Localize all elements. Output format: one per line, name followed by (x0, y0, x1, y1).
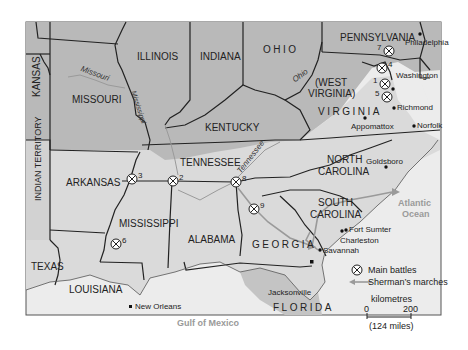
battle-number-4: 4 (388, 61, 392, 69)
label-city-goldsboro: Goldsboro (366, 158, 403, 166)
label-ohio: OHIO (263, 45, 299, 55)
label-west-virginia-2: VIRGINIA) (308, 89, 355, 99)
battle-marker-9 (249, 204, 259, 214)
label-missouri: MISSOURI (72, 95, 121, 105)
label-georgia: GEORGIA (252, 240, 316, 250)
label-florida: FLORIDA (273, 303, 334, 313)
label-south-carolina-1: SOUTH (318, 198, 353, 208)
label-tennessee: TENNESSEE (180, 158, 241, 168)
label-arkansas: ARKANSAS (66, 178, 120, 188)
legend-battle-icon (352, 265, 362, 275)
label-north-carolina-2: CAROLINA (318, 167, 369, 177)
label-city-philadelphia: Philadelphia (405, 39, 449, 47)
legend-shermans-marches: Sherman’s marches (368, 278, 448, 287)
battle-number-2: 2 (179, 174, 183, 182)
label-city-savannah: Savannah (323, 247, 359, 255)
label-south-carolina-2: CAROLINA (310, 210, 361, 220)
label-kansas: KANSAS (32, 56, 42, 97)
battle-number-3: 3 (138, 172, 142, 180)
label-illinois: ILLINOIS (137, 52, 178, 62)
legend-scale-start: 0 (364, 305, 369, 314)
battle-number-6: 6 (122, 237, 126, 245)
label-indian-territory: INDIAN TERRITORY (34, 116, 43, 201)
battle-number-8: 8 (242, 175, 246, 183)
label-city-appomattox: Appomattox (351, 123, 394, 131)
label-city-washington: Washington (396, 72, 438, 80)
battle-marker-3 (127, 174, 137, 184)
battle-number-5: 5 (375, 90, 379, 98)
label-north-carolina-1: NORTH (327, 155, 362, 165)
legend-scale-unit: kilometres (371, 295, 412, 304)
battle-marker-1 (380, 79, 390, 89)
battle-marker-4 (377, 63, 387, 73)
label-alabama: ALABAMA (188, 235, 235, 245)
legend-scale-miles: (124 miles) (369, 322, 414, 331)
label-virginia: VIRGINIA (318, 107, 382, 117)
battle-marker-8 (231, 177, 241, 187)
legend-scale-end: 200 (403, 305, 418, 314)
battle-marker-2 (168, 176, 178, 186)
label-mississippi: MISSISSIPPI (119, 219, 178, 229)
battle-marker-5 (382, 92, 392, 102)
label-atlantic-1: Atlantic (398, 199, 431, 208)
battle-marker-7 (384, 46, 394, 56)
label-texas: TEXAS (31, 262, 64, 272)
legend-main-battles: Main battles (368, 266, 417, 275)
label-gulf-of-mexico: Gulf of Mexico (177, 319, 239, 328)
label-pennsylvania: PENNSYLVANIA (340, 33, 415, 43)
battle-number-1: 1 (373, 77, 377, 85)
battle-number-7: 7 (377, 44, 381, 52)
label-city-fort-sumter: Fort Sumter (349, 226, 391, 234)
label-louisiana: LOUISIANA (69, 285, 122, 295)
label-city-norfolk: Norfolk (417, 122, 442, 130)
label-city-new-orleans: New Orleans (135, 303, 181, 311)
label-city-richmond: Richmond (397, 104, 433, 112)
label-kentucky: KENTUCKY (205, 123, 259, 133)
label-west-virginia-1: (WEST (315, 78, 347, 88)
battle-number-9: 9 (260, 202, 264, 210)
label-atlantic-2: Ocean (402, 210, 430, 219)
label-indiana: INDIANA (200, 52, 241, 62)
label-city-charleston: Charleston (340, 237, 379, 245)
label-city-jacksonville: Jacksonville (268, 289, 311, 297)
battle-marker-6 (111, 239, 121, 249)
